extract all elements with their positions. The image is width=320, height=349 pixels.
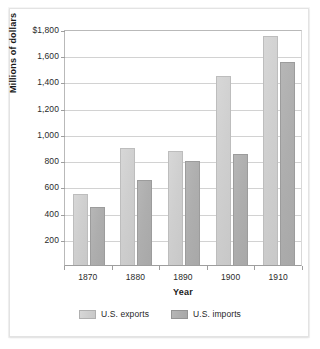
x-axis-tick-mark	[254, 266, 255, 270]
bar-u-s-imports-1910	[280, 62, 295, 265]
legend-item-imports: U.S. imports	[171, 309, 241, 319]
figure-card: Millions of dollars $1,8001,6001,4001,20…	[9, 8, 309, 337]
y-axis-tick-mark	[61, 57, 65, 58]
x-axis-tick-mark	[159, 266, 160, 270]
bar-u-s-exports-1900	[216, 76, 231, 265]
bar-u-s-imports-1900	[233, 154, 248, 265]
y-axis-tick-mark	[61, 241, 65, 242]
x-axis-tick-mark	[64, 266, 65, 270]
x-axis-tick-label: 1910	[269, 272, 288, 282]
y-axis-tick-mark	[61, 31, 65, 32]
bar-u-s-imports-1880	[137, 180, 152, 265]
y-axis-tick-label: 1,200	[37, 104, 59, 114]
bar-u-s-exports-1890	[168, 151, 183, 265]
x-axis-tick-label: 1880	[126, 272, 145, 282]
y-axis-tick-label: $1,800	[32, 25, 59, 35]
x-axis-tick-label: 1890	[173, 272, 192, 282]
bar-u-s-exports-1880	[120, 148, 135, 265]
x-axis-tick-mark	[302, 266, 303, 270]
bar-u-s-exports-1870	[73, 194, 88, 265]
y-axis-tick-label: 1,600	[37, 51, 59, 61]
bar-u-s-imports-1870	[90, 207, 105, 265]
y-axis-tick-mark	[61, 83, 65, 84]
bar-u-s-imports-1890	[185, 161, 200, 265]
y-axis-tick-mark	[61, 215, 65, 216]
y-axis-title: Millions of dollars	[8, 13, 18, 93]
plot-area	[64, 30, 302, 266]
bar-chart: Millions of dollars $1,8001,6001,4001,20…	[10, 9, 310, 338]
y-axis-tick-label: 1,000	[37, 130, 59, 140]
legend-label: U.S. exports	[101, 309, 149, 319]
y-axis-tick-label: 600	[45, 182, 59, 192]
legend-swatch-icon	[79, 310, 96, 319]
legend-label: U.S. imports	[193, 309, 241, 319]
x-axis-tick-mark	[112, 266, 113, 270]
x-axis-tick-label: 1870	[78, 272, 97, 282]
y-axis-tick-label: 200	[45, 235, 59, 245]
y-axis-tick-mark	[61, 136, 65, 137]
y-axis-tick-label: 1,400	[37, 77, 59, 87]
chart-legend: U.S. exportsU.S. imports	[10, 309, 310, 319]
bar-u-s-exports-1910	[263, 36, 278, 265]
legend-swatch-icon	[171, 310, 188, 319]
y-axis-tick-mark	[61, 110, 65, 111]
y-axis-tick-label: 800	[45, 156, 59, 166]
y-axis-tick-mark	[61, 162, 65, 163]
y-axis-tick-label: 400	[45, 209, 59, 219]
x-axis-tick-mark	[207, 266, 208, 270]
x-axis-title: Year	[64, 287, 302, 297]
y-axis-tick-mark	[61, 188, 65, 189]
legend-item-exports: U.S. exports	[79, 309, 149, 319]
x-axis-tick-label: 1900	[221, 272, 240, 282]
